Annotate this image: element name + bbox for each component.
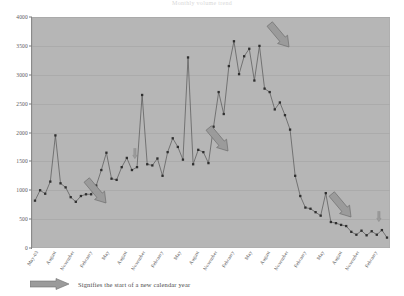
data-point-marker — [121, 166, 123, 168]
y-axis-tick-label: 2000 — [16, 130, 28, 136]
x-axis-tick-label: August — [116, 250, 128, 265]
x-axis-tick-label: August — [331, 250, 343, 265]
data-point-marker — [309, 208, 311, 210]
annotation-arrow-new-calendar-year — [257, 17, 289, 49]
data-point-marker — [233, 40, 235, 42]
right-block-arrow-icon — [30, 278, 70, 290]
y-axis-tick-label: 500 — [19, 216, 28, 222]
block-arrow-icon — [132, 149, 136, 159]
x-axis-tick-label: August — [259, 250, 271, 265]
chart-root: Monthly volume trend 0500100015002000250… — [0, 0, 404, 296]
x-axis-tick-label: February — [150, 250, 164, 269]
y-axis-tick-label: 1500 — [16, 158, 28, 164]
x-axis-tick-label: November — [202, 250, 218, 271]
x-axis-tick-label: August — [45, 250, 57, 265]
x-axis-tick-label: November — [131, 250, 147, 271]
data-point-marker — [248, 48, 250, 50]
data-point-marker — [340, 224, 342, 226]
data-point-marker — [126, 157, 128, 159]
annotation-arrow-new-calendar-year — [74, 173, 106, 205]
y-axis: 05001000150020002500300035004000 — [0, 17, 32, 248]
data-point-marker — [115, 179, 117, 181]
data-point-marker — [59, 182, 61, 184]
data-point-marker — [54, 134, 56, 136]
x-axis-tick-label: May-03 — [26, 250, 39, 267]
data-point-marker — [100, 169, 102, 171]
data-point-marker — [269, 91, 271, 93]
data-point-marker — [279, 101, 281, 103]
chart-title: Monthly volume trend — [0, 0, 404, 12]
data-point-marker — [243, 55, 245, 57]
data-point-marker — [360, 230, 362, 232]
data-point-marker — [207, 162, 209, 164]
data-point-marker — [294, 175, 296, 177]
data-point-marker — [238, 73, 240, 75]
data-point-marker — [376, 234, 378, 236]
data-point-marker — [105, 152, 107, 154]
x-axis-tick-label: May — [244, 250, 253, 261]
y-axis-tick-label: 1000 — [16, 187, 28, 193]
data-point-marker — [146, 163, 148, 165]
data-point-marker — [70, 196, 72, 198]
x-axis-tick-label: May — [101, 250, 110, 261]
data-point-marker — [141, 94, 143, 96]
annotation-arrow-new-calendar-year — [196, 121, 228, 153]
data-point-marker — [172, 137, 174, 139]
data-point-marker — [49, 180, 51, 182]
legend-label: Signifies the start of a new calendar ye… — [78, 281, 190, 288]
x-axis-tick-label: February — [221, 250, 235, 269]
data-point-marker — [39, 189, 41, 191]
y-axis-tick-label: 2500 — [16, 101, 28, 107]
data-point-marker — [371, 230, 373, 232]
x-axis-tick-label: November — [273, 250, 289, 271]
data-point-marker — [304, 206, 306, 208]
data-point-marker — [161, 175, 163, 177]
annotation-arrow-new-calendar-year — [377, 201, 388, 233]
data-point-marker — [44, 193, 46, 195]
x-axis-tick-label: November — [59, 250, 75, 271]
data-point-marker — [284, 114, 286, 116]
data-point-marker — [223, 113, 225, 115]
data-point-marker — [166, 151, 168, 153]
x-axis-tick-label: August — [188, 250, 200, 265]
data-point-marker — [355, 234, 357, 236]
data-point-marker — [156, 157, 158, 159]
y-axis-tick-label: 4000 — [16, 14, 28, 20]
x-axis-tick-label: May — [173, 250, 182, 261]
block-arrow-icon — [377, 212, 381, 222]
data-point-marker — [345, 225, 347, 227]
x-axis-tick-label: November — [345, 250, 361, 271]
data-point-marker — [330, 221, 332, 223]
y-axis-tick-label: 3000 — [16, 72, 28, 78]
data-point-marker — [34, 200, 36, 202]
data-point-marker — [289, 128, 291, 130]
data-point-marker — [110, 178, 112, 180]
annotation-arrow-new-calendar-year — [319, 187, 351, 219]
data-point-marker — [335, 222, 337, 224]
x-axis-tick-label: February — [79, 250, 93, 269]
data-point-marker — [365, 234, 367, 236]
x-axis-tick-label: February — [293, 250, 307, 269]
annotation-arrow-new-calendar-year — [133, 138, 144, 170]
legend: Signifies the start of a new calendar ye… — [30, 277, 190, 291]
data-point-marker — [386, 236, 388, 238]
x-axis-tick-label: February — [364, 250, 378, 269]
data-point-marker — [151, 164, 153, 166]
data-point-marker — [177, 146, 179, 148]
y-axis-tick-label: 0 — [25, 245, 28, 251]
data-point-marker — [299, 195, 301, 197]
plot-area — [32, 17, 390, 248]
data-point-marker — [314, 211, 316, 213]
data-point-marker — [263, 87, 265, 89]
data-point-marker — [64, 186, 66, 188]
data-point-marker — [274, 108, 276, 110]
data-point-marker — [228, 65, 230, 67]
data-point-marker — [218, 91, 220, 93]
data-point-marker — [350, 231, 352, 233]
data-point-marker — [182, 158, 184, 160]
data-point-marker — [187, 56, 189, 58]
y-axis-tick-label: 3500 — [16, 43, 28, 49]
data-point-marker — [253, 79, 255, 81]
data-point-marker — [192, 163, 194, 165]
x-axis-tick-label: May — [316, 250, 325, 261]
